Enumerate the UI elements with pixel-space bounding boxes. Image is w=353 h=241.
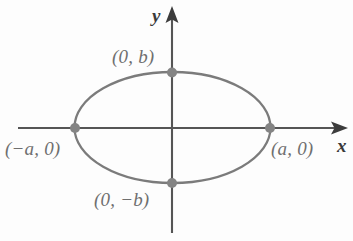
ellipse-figure: (0, b) (0, −b) (−a, 0) (a, 0) y x <box>0 0 353 241</box>
y-axis-label: y <box>152 6 160 25</box>
label-left-vertex: (−a, 0) <box>5 139 60 158</box>
vertex-point-bottom <box>167 178 177 188</box>
label-bottom-vertex: (0, −b) <box>94 190 149 209</box>
vertex-point-top <box>167 68 177 78</box>
vertex-point-left <box>70 123 80 133</box>
vertex-point-right <box>265 123 275 133</box>
ellipse-graphic <box>0 0 353 241</box>
x-axis-label: x <box>337 136 347 155</box>
label-right-vertex: (a, 0) <box>271 139 313 158</box>
label-top-vertex: (0, b) <box>112 47 154 66</box>
